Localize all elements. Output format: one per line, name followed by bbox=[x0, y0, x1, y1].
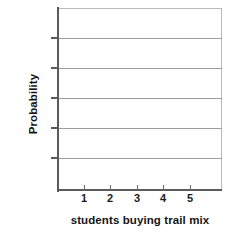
x-axis-tick-label-2: 2 bbox=[100, 192, 120, 205]
x-axis-tick-label-4: 4 bbox=[153, 192, 173, 205]
x-axis-tick-1 bbox=[84, 185, 85, 191]
probability-chart-figure: 1 2 3 4 5 students buying trail mix Prob… bbox=[0, 0, 232, 234]
x-axis-tick-label-5: 5 bbox=[180, 192, 200, 205]
y-axis-tick-4 bbox=[51, 127, 58, 129]
x-axis-tick-label-1: 1 bbox=[74, 192, 94, 205]
gridline-1 bbox=[58, 38, 222, 39]
x-axis-tick-4 bbox=[163, 185, 164, 191]
y-axis-tick-3 bbox=[51, 97, 58, 99]
gridline-4 bbox=[58, 128, 222, 129]
gridline-2 bbox=[58, 68, 222, 69]
gridline-5 bbox=[58, 158, 222, 159]
y-axis-tick-2 bbox=[51, 67, 58, 69]
y-axis-line bbox=[57, 7, 59, 192]
x-axis-title: students buying trail mix bbox=[52, 213, 228, 227]
gridline-3 bbox=[58, 98, 222, 99]
x-axis-line bbox=[57, 189, 222, 191]
x-axis-tick-2 bbox=[110, 185, 111, 191]
x-axis-tick-5 bbox=[190, 185, 191, 191]
x-axis-tick-3 bbox=[137, 185, 138, 191]
plot-area bbox=[58, 8, 222, 190]
y-axis-tick-5 bbox=[51, 157, 58, 159]
y-axis-tick-1 bbox=[51, 37, 58, 39]
y-axis-title: Probability bbox=[26, 50, 40, 158]
x-axis-tick-label-3: 3 bbox=[127, 192, 147, 205]
